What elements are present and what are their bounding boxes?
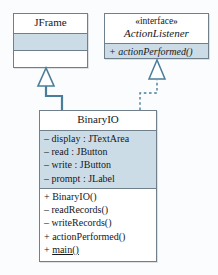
binaryio-method-main: + main() [44,243,152,256]
jframe-class-name: JFrame [18,15,83,29]
binaryio-method-writerecords: – writeRecords() [44,216,152,229]
method-signature: writeRecords() [52,217,112,228]
class-box-jframe[interactable]: JFrame [13,13,88,68]
actionlistener-method-actionperformed: + actionPerformed() [109,45,204,58]
method-signature: BinaryIO() [52,191,96,202]
realization-line [140,80,157,110]
attribute-signature: read : JButton [52,146,108,157]
actionlistener-stereotype: «interface» [109,15,204,27]
actionlistener-title-compartment: «interface» ActionListener [105,14,208,43]
attribute-signature: write : JButton [52,159,111,170]
visibility-marker: – [44,146,49,157]
attribute-signature: prompt : JLabel [52,173,115,184]
generalization-line [46,85,62,110]
visibility-marker: – [44,159,49,170]
class-box-actionlistener[interactable]: «interface» ActionListener + actionPerfo… [104,13,209,59]
visibility-marker: + [44,244,50,255]
hollow-triangle-arrowhead [149,60,165,79]
binaryio-method-actionperformed: + actionPerformed() [44,230,152,243]
binaryio-class-name: BinaryIO [44,112,152,126]
binaryio-method-constructor: + BinaryIO() [44,190,152,203]
realization-binaryio-to-actionlistener [140,60,165,110]
actionlistener-methods-compartment: + actionPerformed() [105,43,208,58]
binaryio-method-readrecords: – readRecords() [44,203,152,216]
method-signature: actionPerformed() [52,231,125,242]
method-signature: main() [52,244,79,255]
binaryio-attribute-prompt: – prompt : JLabel [44,172,152,185]
visibility-marker: – [44,133,49,144]
binaryio-attribute-display: – display : JTextArea [44,132,152,145]
visibility-marker: + [44,231,50,242]
visibility-marker: – [44,173,49,184]
jframe-attributes-compartment [14,33,87,50]
uml-class-diagram: JFrame «interface» ActionListener + acti… [0,0,218,275]
binaryio-title-compartment: BinaryIO [40,111,156,130]
binaryio-methods-compartment: + BinaryIO() – readRecords() – writeReco… [40,188,156,261]
jframe-methods-compartment [14,50,87,66]
generalization-binaryio-to-jframe [38,68,62,110]
visibility-marker: + [109,46,116,57]
class-box-binaryio[interactable]: BinaryIO – display : JTextArea – read : … [39,110,157,262]
jframe-title-compartment: JFrame [14,14,87,33]
hollow-triangle-arrowhead [38,68,54,86]
binaryio-attribute-write: – write : JButton [44,158,152,171]
binaryio-attributes-compartment: – display : JTextArea – read : JButton –… [40,130,156,188]
method-signature: readRecords() [52,204,109,215]
attribute-signature: display : JTextArea [52,133,130,144]
visibility-marker: + [44,191,50,202]
binaryio-attribute-read: – read : JButton [44,145,152,158]
visibility-marker: – [44,204,49,215]
method-signature: actionPerformed() [118,46,192,57]
visibility-marker: – [44,217,49,228]
actionlistener-class-name: ActionListener [109,27,204,40]
